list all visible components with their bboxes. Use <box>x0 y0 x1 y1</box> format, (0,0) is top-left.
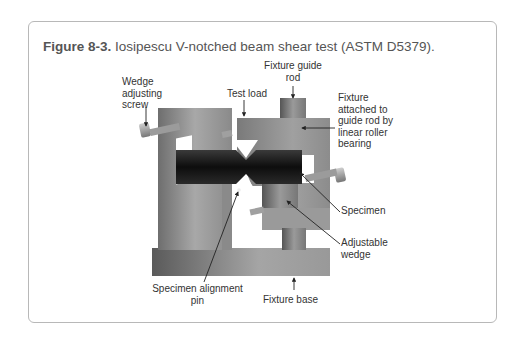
label-fixture-base: Fixture base <box>263 294 318 306</box>
iosipescu-fixture-diagram <box>0 0 524 344</box>
lower-guide-rod <box>282 228 306 250</box>
label-adjustable-wedge: Adjustable wedge <box>341 237 388 260</box>
adjustable-wedge <box>262 182 298 212</box>
label-specimen: Specimen <box>341 205 385 217</box>
label-fixture-attached: Fixture attached to guide rod by linear … <box>338 92 393 150</box>
specimen <box>176 150 302 184</box>
label-wedge-adjusting-screw: Wedge adjusting screw <box>122 76 162 111</box>
label-specimen-alignment-pin: Specimen alignment pin <box>145 283 250 306</box>
label-fixture-guide-rod: Fixture guide rod <box>263 60 323 83</box>
fixture-base <box>152 248 330 276</box>
label-test-load: Test load <box>227 88 267 100</box>
specimen-alignment-pin <box>237 188 241 192</box>
fixture-guide-rod <box>280 98 306 120</box>
